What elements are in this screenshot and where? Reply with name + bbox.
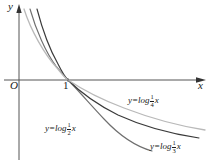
curve-label-half-prefix: y=log [45,123,67,133]
curve-label-half-fraction: 12 [67,122,71,136]
curve-label-third-fraction: 13 [172,140,176,154]
logarithm-curves-figure: y x O 1 y=log14x y=log12x y=log13x [0,0,211,165]
y-axis-arrow-icon [16,4,21,13]
curve-label-quarter-fraction: 14 [150,94,154,108]
curve-label-half-suffix: x [72,123,76,133]
curve-label-log-base-one-quarter: y=log14x [128,94,159,108]
curve-label-third-denominator: 3 [172,148,176,155]
curve-label-quarter-suffix: x [155,95,159,105]
curve-label-half-denominator: 2 [67,130,71,137]
curve-label-quarter-prefix: y=log [128,95,150,105]
curve-label-quarter-denominator: 4 [150,102,154,109]
curve-log-base-one-quarter [24,9,205,130]
curve-label-third-suffix: x [177,141,181,151]
curve-label-log-base-one-third: y=log13x [150,140,181,154]
curve-label-log-base-one-half: y=log12x [45,122,76,136]
y-axis-label: y [8,1,13,12]
x-tick-label-1: 1 [63,80,69,91]
origin-label: O [10,80,18,91]
x-axis-label: x [198,80,203,91]
curve-label-third-prefix: y=log [150,141,172,151]
